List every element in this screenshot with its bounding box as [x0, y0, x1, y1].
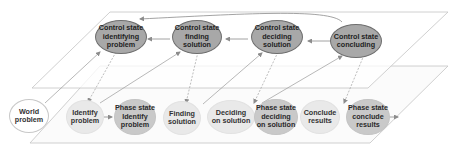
- action-node-finding-solution: Finding solution: [163, 101, 201, 135]
- phase-node-conclude-results: Phase state conclude results: [346, 99, 390, 135]
- world-problem-node: World problem: [9, 99, 49, 133]
- phase-node-identify-problem: Phase state Identify problem: [114, 99, 156, 135]
- control-node-deciding-solution: Control state deciding solution: [251, 20, 303, 54]
- control-node-identifying-problem: Control state identifying problem: [95, 20, 147, 54]
- action-node-identify-problem: Identify problem: [66, 100, 104, 134]
- action-node-deciding-on-solution: Deciding on solution: [207, 100, 255, 134]
- control-node-finding-solution: Control state finding solution: [172, 20, 222, 54]
- control-node-concluding: Control state concluding: [330, 24, 382, 58]
- phase-node-deciding-on-solution: Phase state deciding on solution: [254, 99, 298, 135]
- action-node-conclude-results: Conclude results: [300, 100, 340, 134]
